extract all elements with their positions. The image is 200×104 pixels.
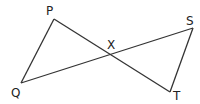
segment-PT xyxy=(54,19,170,92)
label-X: X xyxy=(107,38,115,52)
segment-QS xyxy=(21,28,193,83)
label-Q: Q xyxy=(11,86,20,100)
label-S: S xyxy=(186,14,194,28)
segment-ST xyxy=(170,28,193,92)
label-P: P xyxy=(46,4,53,18)
geometry-diagram: P Q S T X xyxy=(0,0,200,104)
label-T: T xyxy=(172,89,181,103)
